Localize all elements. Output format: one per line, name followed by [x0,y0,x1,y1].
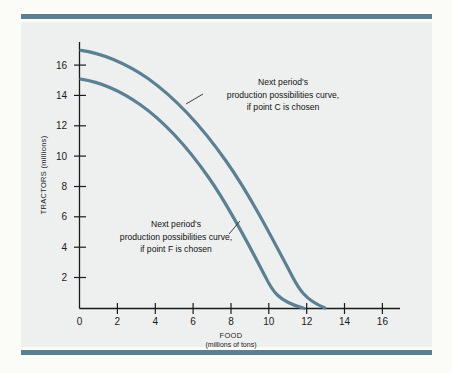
y-tick-label-16: 16 [56,60,68,71]
x-tick-label-4: 4 [153,316,159,327]
x-axis-subtitle: (millions of tons) [206,341,257,349]
y-tick-label-4: 4 [61,242,67,253]
annotation-curve-f: Next period's production possibilities c… [120,219,240,254]
x-tick-label-12: 12 [301,316,313,327]
annotation-c-line-2: production possibilities curve, [227,90,339,100]
x-tick-label-6: 6 [190,316,196,327]
x-axis-tick-labels: 0 2 4 6 8 10 12 14 16 [77,316,389,327]
annotation-c-line-3: if point C is chosen [247,102,320,112]
axes [80,42,401,309]
y-tick-label-8: 8 [61,181,67,192]
curve-point-f [81,79,304,308]
y-tick-label-6: 6 [61,211,67,222]
y-axis-title: TRACTORS (millions) [39,135,48,214]
annotation-c-line-1: Next period's [258,77,308,87]
annotation-f-line-2: production possibilities curve, [120,232,232,242]
x-axis-title: FOOD [220,331,243,340]
x-tick-label-14: 14 [339,316,351,327]
annotation-c-leader-line [186,94,203,104]
chart-plot: 16 14 12 10 8 6 4 2 0 2 4 6 8 10 [0,0,452,373]
y-tick-label-10: 10 [56,151,68,162]
x-tick-label-8: 8 [228,316,234,327]
y-tick-label-12: 12 [56,120,68,131]
y-tick-label-14: 14 [56,90,68,101]
y-tick-label-2: 2 [61,272,67,283]
annotation-f-line-1: Next period's [151,219,201,229]
x-tick-label-2: 2 [115,316,121,327]
y-axis-tick-labels: 16 14 12 10 8 6 4 2 [56,60,68,283]
annotation-curve-c: Next period's production possibilities c… [186,77,339,112]
x-tick-label-10: 10 [263,316,275,327]
annotation-f-line-3: if point F is chosen [140,244,212,254]
x-tick-label-16: 16 [377,316,389,327]
x-tick-label-0: 0 [77,316,83,327]
figure-container: 16 14 12 10 8 6 4 2 0 2 4 6 8 10 [0,0,452,373]
